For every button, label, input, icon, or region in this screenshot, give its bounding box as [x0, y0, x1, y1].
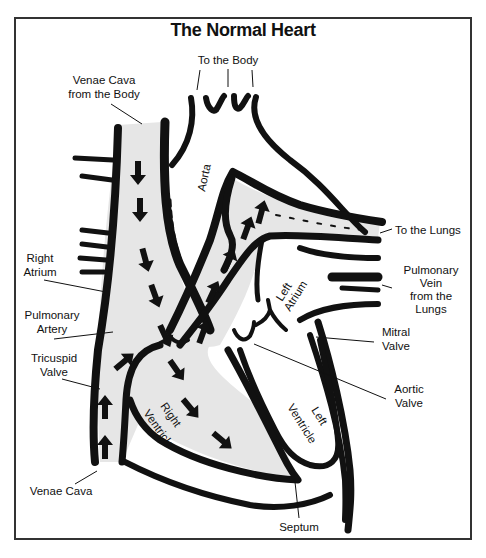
- label-pulmonary-vein-line4: Lungs: [415, 303, 447, 315]
- label-venae-cava-from-body-line1: Venae Cava: [73, 74, 136, 86]
- mitral-valve-leaflet: [256, 300, 286, 330]
- pulmonary-vein-upper: [300, 248, 378, 258]
- label-pulmonary-artery-line2: Artery: [37, 323, 68, 335]
- pulmonary-vein-middle-lower: [342, 288, 378, 290]
- label-tricuspid-valve-line1: Tricuspid: [31, 352, 77, 364]
- vena-cava-branch: [82, 230, 108, 233]
- label-mitral-valve-line2: Valve: [382, 340, 410, 352]
- label-venae-cava: Venae Cava: [30, 485, 93, 497]
- vena-cava-branch: [82, 244, 107, 247]
- label-pulmonary-vein-line3: from the: [410, 290, 452, 302]
- leader-right-atrium: [44, 280, 106, 292]
- label-mitral-valve-line1: Mitral: [382, 326, 410, 338]
- label-aorta: Aorta: [195, 162, 213, 192]
- leader-to-body-right: [252, 70, 253, 87]
- aorta-left-wall: [172, 98, 192, 165]
- label-to-the-lungs: To the Lungs: [395, 224, 461, 236]
- vena-cava-branch: [82, 176, 112, 180]
- leader-to-lungs: [380, 229, 392, 233]
- leader-pulmonary-vein: [382, 285, 392, 288]
- label-right-atrium-line2: Atrium: [23, 266, 56, 278]
- aortic-valve-leaflet: [234, 322, 254, 339]
- label-aortic-valve-line1: Aortic: [394, 383, 424, 395]
- label-left-ventricle-line1: Left: [309, 405, 330, 428]
- aortic-branch: [206, 96, 224, 111]
- label-aortic-valve-line2: Valve: [395, 397, 423, 409]
- pulmonary-vein-lower: [300, 304, 378, 320]
- vena-cava-branch: [75, 158, 113, 160]
- label-septum: Septum: [279, 521, 319, 533]
- label-right-atrium-line1: Right: [27, 252, 55, 264]
- leader-to-body-left: [197, 70, 200, 90]
- aortic-branch: [234, 96, 248, 109]
- label-pulmonary-vein-line2: Vein: [420, 277, 442, 289]
- heart-diagram: To the Body Venae Cava from the Body Aor…: [0, 0, 486, 558]
- label-pulmonary-vein-line1: Pulmonary: [404, 264, 459, 276]
- label-venae-cava-from-body-line2: from the Body: [68, 88, 140, 100]
- leader-venae-cava: [75, 471, 97, 484]
- label-to-the-body: To the Body: [198, 54, 259, 66]
- label-tricuspid-valve-line2: Valve: [40, 366, 68, 378]
- leader-venae-cava-body: [111, 104, 142, 124]
- vena-cava-branch: [80, 258, 106, 260]
- label-pulmonary-artery-line1: Pulmonary: [25, 309, 80, 321]
